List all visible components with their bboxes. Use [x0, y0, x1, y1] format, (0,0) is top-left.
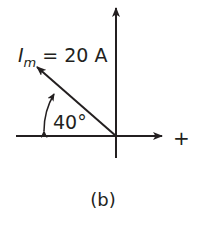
- figure-caption: (b): [90, 189, 115, 210]
- phasor-diagram: Im = 20 A 40° + (b): [0, 0, 206, 231]
- phasor-equals: =: [36, 44, 64, 66]
- angle-label: 40°: [53, 111, 87, 133]
- phasor-value: 20 A: [64, 44, 107, 66]
- positive-axis-label: +: [173, 126, 190, 150]
- phasor-label: Im = 20 A: [18, 44, 108, 70]
- phasor-subscript: m: [24, 55, 37, 70]
